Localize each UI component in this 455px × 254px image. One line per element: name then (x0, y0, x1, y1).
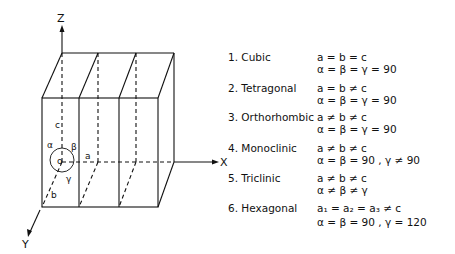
system-label: 1. Cubic (228, 51, 271, 63)
system-label: 6. Hexagonal (228, 202, 297, 214)
lengths-relation: a = b ≠ c (317, 82, 367, 94)
alpha-label: α (47, 140, 53, 150)
front-face (42, 98, 158, 207)
lengths-relation: a ≠ b ≠ c (317, 172, 367, 184)
y-axis-label: Y (21, 238, 29, 251)
system-label: 4. Monoclinic (228, 142, 297, 154)
system-label: 5. Triclinic (228, 172, 280, 184)
x-arrow-icon (212, 160, 219, 165)
a-edge-label: a (85, 151, 91, 161)
lengths-relation: a = b = c (317, 51, 367, 63)
c-label: c (55, 120, 60, 130)
origin-label: o (57, 156, 63, 166)
angles-relation: α = β = 90 , γ ≠ 90 (317, 154, 420, 166)
angles-relation: α = β = γ = 90 (317, 123, 397, 135)
z-arrow-icon (60, 25, 65, 32)
z-axis-label: Z (57, 12, 65, 25)
lengths-relation: a ≠ b ≠ c (317, 111, 367, 123)
system-label: 2. Tetragonal (228, 82, 296, 94)
angles-relation: α ≠ β ≠ γ (317, 184, 368, 196)
b-label: b (51, 190, 57, 200)
y-axis (30, 210, 40, 232)
lengths-relation: a ≠ b ≠ c (317, 142, 367, 154)
system-label: 3. Orthorhombic (228, 111, 314, 123)
x-axis-label: X (220, 156, 228, 169)
angles-relation: α = β = 90 , γ = 120 (317, 216, 427, 228)
beta-label: β (71, 142, 77, 152)
gamma-label: γ (66, 174, 72, 184)
angles-relation: α = β = γ = 90 (317, 94, 397, 106)
lengths-relation: a₁ = a₂ = a₃ ≠ c (317, 202, 401, 214)
angles-relation: α = β = γ = 90 (317, 63, 397, 75)
